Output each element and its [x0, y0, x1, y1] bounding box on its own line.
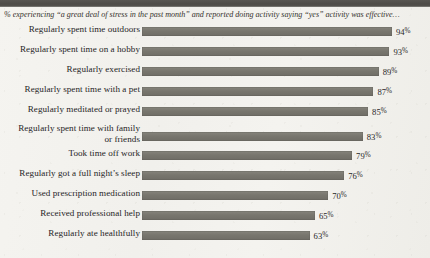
bar-rows: Regularly spent time outdoors94%Regularl… — [0, 24, 430, 248]
percent-sign: % — [405, 27, 411, 35]
bar-row-label: Regularly exercised — [0, 64, 140, 75]
bar-row-label: Regularly got a full night’s sleep — [0, 168, 140, 179]
bar-value-label: 87% — [377, 86, 392, 98]
bar-row: Regularly spent time with familyor frien… — [0, 124, 430, 148]
bar-value-number: 85 — [372, 106, 381, 116]
bar-row: Took time off work79% — [0, 148, 430, 168]
bar-value-label: 63% — [314, 230, 329, 242]
bar-row-label: Received professional help — [0, 208, 140, 219]
bar-row: Regularly spent time on a hobby93% — [0, 44, 430, 64]
bar-value-label: 65% — [319, 210, 334, 222]
bar-value-number: 94 — [396, 26, 405, 36]
bar-value-number: 93 — [393, 46, 402, 56]
bar-row: Received professional help65% — [0, 208, 430, 228]
bar-value-label: 83% — [367, 131, 382, 143]
chart-page: % experiencing “a great deal of stress i… — [0, 0, 430, 258]
bar-value-number: 63 — [314, 230, 323, 240]
bar-track: 89% — [142, 67, 430, 76]
percent-sign: % — [391, 67, 397, 75]
bar-value-number: 89 — [383, 66, 392, 76]
bar-value-label: 89% — [383, 66, 398, 78]
bar — [142, 132, 363, 141]
bar-value-label: 94% — [396, 26, 411, 38]
bar-value-number: 76 — [348, 170, 357, 180]
bar — [142, 191, 328, 200]
percent-sign: % — [381, 107, 387, 115]
bar-row: Regularly exercised89% — [0, 64, 430, 84]
bar — [142, 107, 368, 116]
percent-sign: % — [386, 87, 392, 95]
bar-row-label-line2: or friends — [104, 134, 140, 144]
bar-track: 93% — [142, 47, 430, 56]
bar-row: Regularly meditated or prayed85% — [0, 104, 430, 124]
bar-row-label: Regularly spent time with familyor frien… — [0, 123, 140, 145]
bar-row-label: Regularly ate healthfully — [0, 228, 140, 239]
bar-track: 83% — [142, 132, 430, 141]
percent-sign: % — [375, 132, 381, 140]
percent-sign: % — [341, 191, 347, 199]
bar-value-label: 85% — [372, 106, 387, 118]
bar-track: 94% — [142, 27, 430, 36]
bar — [142, 87, 373, 96]
bar-row-label: Regularly meditated or prayed — [0, 104, 140, 115]
bar-row: Regularly spent time with a pet87% — [0, 84, 430, 104]
bar — [142, 211, 315, 220]
bar-value-number: 70 — [332, 190, 341, 200]
chart-subtitle: % experiencing “a great deal of stress i… — [4, 9, 428, 20]
bar-row: Regularly ate healthfully63% — [0, 228, 430, 248]
bar-row-label: Regularly spent time with a pet — [0, 84, 140, 95]
bar-track: 70% — [142, 191, 430, 200]
percent-sign: % — [327, 211, 333, 219]
title-band — [0, 0, 430, 7]
bar-track: 63% — [142, 231, 430, 240]
bar-track: 79% — [142, 151, 430, 160]
bar-track: 76% — [142, 171, 430, 180]
percent-sign: % — [357, 171, 363, 179]
bar — [142, 151, 352, 160]
percent-sign: % — [322, 231, 328, 239]
bar-row-label: Took time off work — [0, 148, 140, 159]
percent-sign: % — [365, 151, 371, 159]
percent-sign: % — [402, 47, 408, 55]
bar — [142, 27, 392, 36]
bar — [142, 47, 389, 56]
bar-row: Regularly got a full night’s sleep76% — [0, 168, 430, 188]
bar-value-label: 70% — [332, 190, 347, 202]
bar-value-label: 79% — [356, 150, 371, 162]
bar-row-label: Used prescription medication — [0, 188, 140, 199]
bar-track: 85% — [142, 107, 430, 116]
bar-value-label: 76% — [348, 170, 363, 182]
bar — [142, 231, 310, 240]
bar-track: 87% — [142, 87, 430, 96]
bar-value-number: 79 — [356, 150, 365, 160]
bar-row-label: Regularly spent time on a hobby — [0, 44, 140, 55]
bar — [142, 171, 344, 180]
bar — [142, 67, 379, 76]
bar-track: 65% — [142, 211, 430, 220]
bar-row-label: Regularly spent time outdoors — [0, 24, 140, 35]
bar-row: Used prescription medication70% — [0, 188, 430, 208]
bar-value-number: 87 — [377, 86, 386, 96]
bar-row: Regularly spent time outdoors94% — [0, 24, 430, 44]
bar-value-label: 93% — [393, 46, 408, 58]
